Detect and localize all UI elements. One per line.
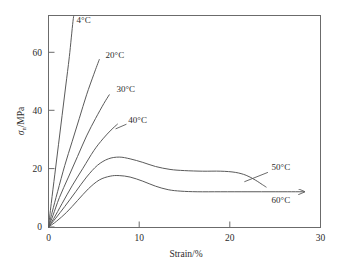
x-tick-label-20: 20 bbox=[225, 233, 235, 243]
chart-container: 60 40 20 0 0 10 20 30 Strain/% σn/MPa bbox=[0, 0, 342, 267]
y-tick-label-60: 60 bbox=[33, 48, 43, 58]
series-label-4c: 4°C bbox=[77, 15, 91, 25]
curve-4c bbox=[49, 10, 75, 227]
y-tick-label-20: 20 bbox=[33, 164, 43, 174]
annotation-leaders bbox=[116, 124, 268, 182]
curve-20c bbox=[49, 60, 100, 227]
y-axis-title-unit: /MPa bbox=[16, 106, 26, 127]
series-label-40c: 40°C bbox=[128, 115, 147, 125]
series-label-20c: 20°C bbox=[106, 50, 125, 60]
curve-60c bbox=[49, 176, 305, 227]
y-tick-label-40: 40 bbox=[33, 106, 43, 116]
y-axis-title: σn/MPa bbox=[16, 106, 27, 135]
x-axis-ticks bbox=[49, 222, 321, 228]
series-label-50c: 50°C bbox=[272, 162, 291, 172]
curve-group bbox=[49, 10, 305, 227]
x-tick-label-0: 0 bbox=[46, 233, 51, 243]
svg-text:σn/MPa: σn/MPa bbox=[16, 106, 27, 135]
series-label-60c: 60°C bbox=[272, 195, 291, 205]
curve-30c bbox=[49, 95, 110, 227]
x-axis-title: Strain/% bbox=[169, 249, 202, 259]
series-label-30c: 30°C bbox=[117, 84, 136, 94]
x-tick-label-10: 10 bbox=[134, 233, 144, 243]
x-tick-label-30: 30 bbox=[316, 233, 326, 243]
stress-strain-chart: 60 40 20 0 0 10 20 30 Strain/% σn/MPa bbox=[0, 0, 342, 267]
y-tick-label-0: 0 bbox=[37, 222, 42, 232]
